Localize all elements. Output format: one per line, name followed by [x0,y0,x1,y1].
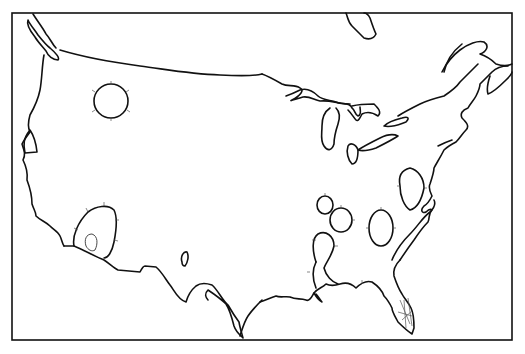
gulf-coast [260,260,414,334]
new-mexico-small-oval [181,252,188,266]
mississippi-lobe [313,262,316,288]
lake-huron [348,104,380,121]
virginia-oval [399,168,424,210]
gulf-coast-texas [240,300,262,336]
idaho-montana-circle [94,84,128,118]
canada-border-2 [262,74,361,116]
gulf-st-lawrence-fjord [444,44,462,72]
southern-california-inner-oval [85,234,97,251]
pacific-coast [22,55,64,246]
mexico-border [64,246,243,338]
contours [74,81,435,288]
map-frame [12,13,512,340]
lake-ontario [384,117,408,126]
hudson-bay-peninsula [346,13,376,39]
mississippi-delta [314,293,322,302]
lake-superior [286,89,350,104]
us-outline-map [0,0,525,354]
lake-erie [358,135,398,151]
nova-scotia [487,72,512,94]
georgia-oval [369,210,393,246]
lake-st-clair-oval [347,144,358,164]
atlantic-coast [400,66,508,260]
lake-michigan [322,108,340,150]
oregon-inset [24,130,37,153]
tennessee-circle [330,208,352,232]
kentucky-small-oval [317,196,333,214]
mississippi-oval [313,233,338,284]
vancouver-island [28,20,59,60]
canada-border [60,50,262,76]
